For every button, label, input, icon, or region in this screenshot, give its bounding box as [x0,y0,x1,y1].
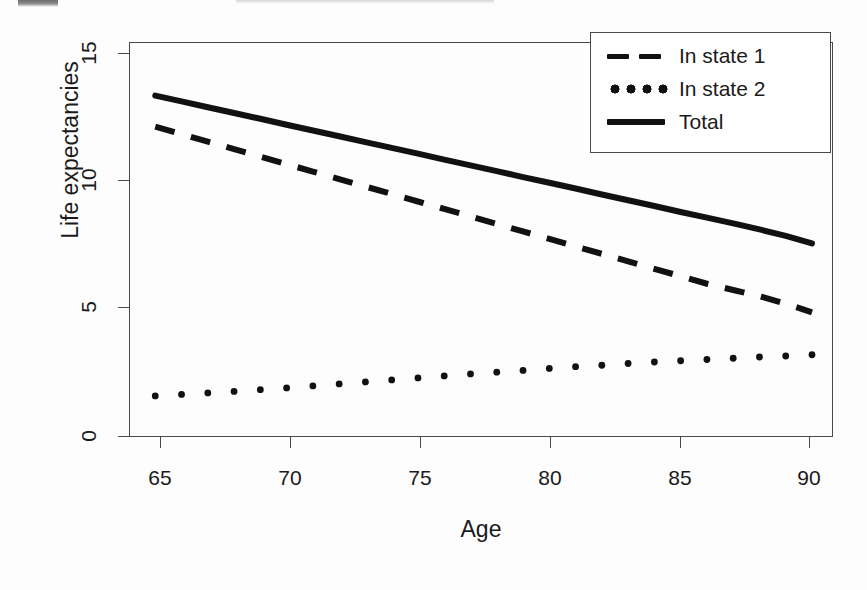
dotted-line-key-icon [605,79,671,99]
y-tick-label-5-wrap: 5 [74,297,104,317]
legend-label-in-state-2: In state 2 [671,77,765,101]
legend-label-in-state-1: In state 1 [671,44,765,68]
x-tick-label-70: 70 [260,466,320,490]
y-axis-title-text: Life expectancies [57,61,84,239]
x-tick-label-80: 80 [520,466,580,490]
y-tick-label-5: 5 [77,301,101,313]
x-tick-65 [160,437,161,448]
y-tick-label-15: 15 [77,41,101,64]
solid-line-key-icon [605,112,671,132]
x-tick-label-90: 90 [779,466,839,490]
x-tick-85 [680,437,681,448]
y-tick-15 [118,53,129,54]
cropped-title-artifact-right [236,0,494,4]
x-axis-title: Age [129,516,833,543]
legend-label-total: Total [671,110,723,134]
x-tick-label-85: 85 [650,466,710,490]
legend-item-in-state-1: In state 1 [605,41,819,71]
legend-item-in-state-2: In state 2 [605,74,819,104]
chart-page: Life expectancies 15 10 5 0 65 70 75 80 … [0,0,867,590]
y-tick-label-0: 0 [77,430,101,442]
y-tick-10 [118,180,129,181]
y-tick-label-10-wrap: 10 [74,170,104,190]
legend: In state 1 In state 2 Total [590,32,831,153]
x-tick-label-75: 75 [390,466,450,490]
y-tick-5 [118,307,129,308]
cropped-title-artifact [18,0,58,7]
y-tick-label-0-wrap: 0 [74,426,104,446]
x-tick-70 [290,437,291,448]
x-tick-80 [550,437,551,448]
y-tick-0 [118,436,129,437]
x-tick-label-65: 65 [130,466,190,490]
x-tick-75 [420,437,421,448]
y-tick-label-10: 10 [77,168,101,191]
x-tick-90 [809,437,810,448]
dashed-line-key-icon [605,46,671,66]
y-tick-label-15-wrap: 15 [74,43,104,63]
legend-item-total: Total [605,107,819,137]
series-in-state-2-dots [152,351,816,399]
